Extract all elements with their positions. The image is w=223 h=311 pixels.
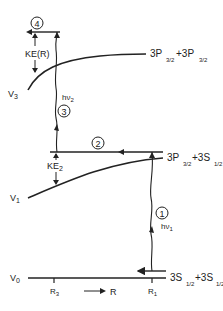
svg-text:3/2: 3/2 [183, 161, 192, 167]
svg-text:1/2: 1/2 [214, 161, 223, 167]
svg-text:+3P: +3P [176, 48, 194, 59]
svg-text:3/2: 3/2 [199, 57, 208, 63]
v1-asymptote-label: 3P 3/2 +3S 1/2 [167, 152, 223, 167]
svg-text:+3S: +3S [195, 272, 213, 283]
step2-arrow-icon [118, 149, 124, 155]
svg-text:1: 1 [159, 209, 164, 219]
svg-text:3P: 3P [150, 48, 163, 59]
v1-label: V1 [10, 193, 20, 204]
photon-hv1 [151, 152, 153, 271]
svg-text:3/2: 3/2 [166, 57, 175, 63]
step-1-marker: 1 [156, 207, 168, 219]
svg-text:1/2: 1/2 [186, 281, 195, 287]
r1-label: R1 [148, 287, 158, 297]
hv2-arrow-icon [54, 124, 59, 131]
v3-curve [28, 54, 146, 90]
svg-text:3S: 3S [170, 272, 183, 283]
v3-label: V3 [8, 89, 18, 100]
v0-label: V0 [10, 273, 20, 284]
step4-arrow-icon [26, 29, 32, 35]
hv1-arrow-icon [149, 226, 154, 233]
svg-text:+3S: +3S [192, 152, 210, 163]
step-4-marker: 4 [31, 17, 43, 29]
arrow-right-icon [100, 288, 106, 294]
photon-hv2 [55, 32, 57, 152]
r-axis-direction: R [84, 287, 117, 297]
v0-curve [28, 278, 166, 283]
ke2-label: KE2 [47, 161, 63, 172]
svg-text:R: R [110, 287, 117, 297]
hv2-label: hν2 [62, 93, 74, 103]
ke-r-label: KE(R) [25, 49, 50, 59]
r3-label: R3 [50, 287, 60, 297]
svg-text:2: 2 [95, 139, 100, 149]
svg-text:4: 4 [34, 19, 39, 29]
step-3-marker: 3 [58, 105, 70, 117]
v3-asymptote-label: 3P 3/2 +3P 3/2 [150, 48, 208, 63]
step-2-marker: 2 [92, 137, 104, 149]
potential-energy-diagram: 1 2 3 4 hν1 hν2 KE(R) KE2 V3 V1 V0 3P 3/… [0, 0, 223, 311]
svg-text:1/2: 1/2 [216, 281, 223, 287]
hv1-label: hν1 [161, 222, 173, 232]
svg-text:3: 3 [61, 107, 66, 117]
v0-asymptote-label: 3S 1/2 +3S 1/2 [170, 272, 223, 287]
svg-text:3P: 3P [167, 152, 180, 163]
